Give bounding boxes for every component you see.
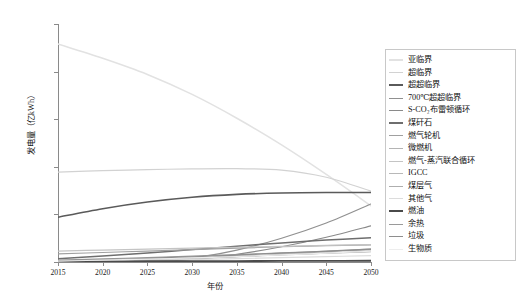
legend-item-label: 余热 (408, 218, 424, 231)
legend-item[interactable]: 亚临界 (389, 54, 512, 67)
legend-item[interactable]: 燃气轮机 (389, 130, 512, 143)
series-line (58, 192, 371, 217)
legend-color-swatch (389, 249, 403, 250)
plot-area (58, 24, 371, 262)
legend-item[interactable]: 煤矸石 (389, 117, 512, 130)
x-axis-tick-label: 2025 (127, 268, 167, 277)
series-line (58, 44, 371, 206)
legend-item[interactable]: 燃气-蒸汽联合循环 (389, 155, 512, 168)
x-axis-tick-mark (103, 262, 104, 266)
legend-color-swatch (389, 122, 403, 124)
legend-color-swatch (389, 135, 403, 136)
legend-item[interactable]: 超超临界 (389, 79, 512, 92)
legend-item[interactable]: 余热 (389, 218, 512, 231)
legend-item[interactable]: 燃油 (389, 205, 512, 218)
legend-item-label: 700℃超超临界 (408, 92, 461, 105)
legend-item[interactable]: IGCC (389, 167, 512, 180)
legend-item-label: 微燃机 (408, 142, 432, 155)
legend-item-label: 生物质 (408, 243, 432, 256)
x-axis-tick-label: 2040 (262, 268, 302, 277)
x-axis-tick-label: 2015 (38, 268, 78, 277)
legend-item[interactable]: 700℃超超临界 (389, 92, 512, 105)
legend-color-swatch (389, 72, 403, 73)
x-axis-tick-mark (371, 262, 372, 266)
x-axis-line (58, 262, 372, 263)
legend-item-label: 其他气 (408, 193, 432, 206)
legend-color-swatch (389, 210, 403, 212)
legend-item[interactable]: 其他气 (389, 193, 512, 206)
x-axis-tick-label: 2045 (306, 268, 346, 277)
legend-item-label: 煤层气 (408, 180, 432, 193)
y-axis-tick-mark (54, 24, 58, 25)
legend-item-label: 燃气-蒸汽联合循环 (408, 155, 475, 168)
x-axis-tick-mark (282, 262, 283, 266)
legend-item[interactable]: 垃圾 (389, 230, 512, 243)
x-axis-tick-mark (192, 262, 193, 266)
legend-item-label: 超临界 (408, 67, 432, 80)
y-axis-tick-mark (54, 214, 58, 215)
legend-item[interactable]: 超临界 (389, 67, 512, 80)
legend-item-label: 超超临界 (408, 79, 440, 92)
x-axis-tick-mark (326, 262, 327, 266)
legend-item-label: IGCC (408, 167, 428, 180)
series-line (58, 245, 371, 254)
y-axis-title: 发电量（亿kWh） (27, 63, 37, 183)
legend-color-swatch (389, 198, 403, 199)
legend-color-swatch (389, 148, 403, 149)
series-line (58, 261, 371, 262)
legend-color-swatch (389, 173, 403, 174)
legend-item-label: 亚临界 (408, 54, 432, 67)
x-axis-tick-mark (147, 262, 148, 266)
legend-item-label: 垃圾 (408, 230, 424, 243)
y-axis-tick-mark (54, 167, 58, 168)
x-axis-title: 年份 (58, 282, 372, 292)
legend-item-label: 燃油 (408, 205, 424, 218)
legend-item[interactable]: 生物质 (389, 243, 512, 256)
legend-color-swatch (389, 98, 403, 99)
legend-color-swatch (389, 186, 403, 187)
chart-figure: 0500010 00015 00020 00025 000 发电量（亿kWh） … (0, 0, 522, 304)
x-axis-tick-mark (58, 262, 59, 266)
legend-item-label: 煤矸石 (408, 117, 432, 130)
x-axis-tick-mark (237, 262, 238, 266)
legend: 亚临界超临界超超临界700℃超超临界S-CO₂布雷顿循环煤矸石燃气轮机微燃机燃气… (385, 49, 516, 261)
series-line (58, 245, 371, 251)
legend-color-swatch (389, 224, 403, 225)
legend-color-swatch (389, 84, 403, 86)
x-axis-tick-label: 2050 (351, 268, 391, 277)
x-axis-tick-label: 2020 (83, 268, 123, 277)
legend-item[interactable]: 煤层气 (389, 180, 512, 193)
legend-item[interactable]: 微燃机 (389, 142, 512, 155)
x-axis-tick-label: 2035 (217, 268, 257, 277)
legend-item-label: S-CO₂布雷顿循环 (408, 104, 470, 117)
legend-color-swatch (389, 110, 403, 111)
series-lines (58, 24, 371, 262)
y-axis-tick-mark (54, 119, 58, 120)
legend-color-swatch (389, 161, 403, 162)
y-axis-tick-mark (54, 72, 58, 73)
legend-color-swatch (389, 59, 403, 61)
legend-item[interactable]: S-CO₂布雷顿循环 (389, 104, 512, 117)
x-axis-tick-label: 2030 (172, 268, 212, 277)
legend-color-swatch (389, 236, 403, 237)
legend-item-label: 燃气轮机 (408, 130, 440, 143)
